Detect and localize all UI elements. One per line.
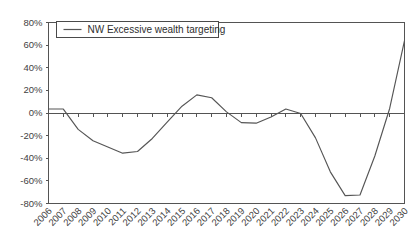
y-axis-tick-label: 0% [29, 107, 43, 118]
legend-label: NW Excessive wealth targeting [88, 24, 226, 35]
y-axis-tick-label: 80% [23, 17, 43, 28]
y-axis-tick-label: -20% [20, 130, 43, 141]
y-axis-tick-labels: 80%60%40%20%0%-20%-40%-60%-80% [20, 17, 43, 209]
y-axis-tick-label: 60% [23, 39, 43, 50]
x-axis-tick-marks [49, 113, 405, 117]
y-axis-tick-label: -60% [20, 175, 43, 186]
series-line-nw-excessive-wealth-targeting [49, 41, 405, 196]
y-axis-tick-label: -40% [20, 152, 43, 163]
y-axis-tick-label: -80% [20, 198, 43, 209]
x-axis-tick-labels: 2006200720082009201020112012201320142015… [31, 205, 410, 228]
line-chart: 80%60%40%20%0%-20%-40%-60%-80% 200620072… [0, 0, 417, 241]
y-axis-tick-label: 40% [23, 62, 43, 73]
chart-container: 80%60%40%20%0%-20%-40%-60%-80% 200620072… [0, 0, 417, 241]
y-axis-tick-label: 20% [23, 84, 43, 95]
chart-legend: NW Excessive wealth targeting [57, 22, 226, 38]
